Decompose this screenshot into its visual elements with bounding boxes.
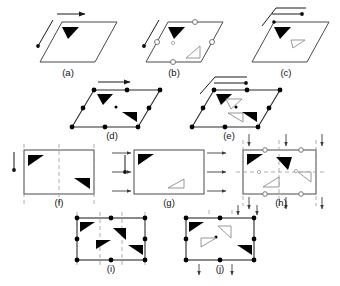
- panel-b-edge-circle-right: [210, 40, 215, 45]
- panel-i-lattice-dot: [75, 258, 80, 263]
- panel-d-lattice-dot: [158, 88, 163, 93]
- panel-c-caption: (c): [280, 67, 291, 78]
- panel-e-lattice-dot: [278, 88, 283, 93]
- panel-e-open-triangle: [226, 99, 242, 109]
- panel-h-filled-triangle: [276, 157, 292, 170]
- panel-e-lattice-dot: [267, 106, 272, 111]
- panel-d-lattice-dot: [136, 125, 141, 130]
- panel-i-filled-triangle: [128, 245, 143, 255]
- panel-d-filled-triangle: [122, 112, 137, 122]
- panel-h-caption: (h): [275, 197, 287, 208]
- panel-j-lattice-dot: [218, 216, 223, 221]
- figure-canvas: (a) (b) (c): [0, 0, 340, 286]
- panel-b-edge-circle-top: [193, 20, 198, 25]
- panel-j-filled-triangle: [237, 245, 252, 255]
- panel-j-open-triangle: [201, 238, 216, 247]
- panel-c-origin-dot: [272, 20, 276, 24]
- panel-j-lattice-dot: [184, 237, 189, 242]
- panel-b-edge-circle-bottom: [171, 60, 176, 65]
- panel-d-caption: (d): [106, 130, 118, 141]
- panel-i-lattice-dot: [143, 237, 148, 242]
- panel-d-center-dot: [115, 106, 118, 109]
- panel-h-edge-circle: [263, 148, 268, 153]
- panel-b-edge-circle-left: [155, 40, 160, 45]
- panel-b-center-circle: [171, 41, 174, 44]
- panel-i-lattice-dot: [143, 258, 148, 263]
- panel-j-open-triangle: [218, 226, 231, 238]
- panel-g-caption: (g): [163, 197, 175, 208]
- panel-c-parallelogram: [252, 22, 329, 62]
- symmetry-diagram-svg: (a) (b) (c): [0, 0, 340, 286]
- panel-i-caption: (i): [107, 263, 115, 274]
- panel-i: (i): [75, 212, 148, 274]
- panel-j-lattice-dot: [184, 216, 189, 221]
- panel-d-lattice-dot: [103, 125, 108, 130]
- panel-h-center-circle: [294, 169, 297, 172]
- panel-g-filled-triangle: [138, 154, 154, 165]
- panel-h-center-circle: [257, 170, 260, 173]
- panel-c-arrow-hooked: [262, 8, 306, 26]
- panel-g: (g): [112, 150, 226, 208]
- panel-c-filled-triangle: [274, 27, 291, 39]
- panel-h-open-triangle: [298, 172, 311, 182]
- panel-e-lattice-dot: [201, 106, 206, 111]
- panel-j-lattice-dot: [184, 258, 189, 263]
- panel-h-open-triangle: [263, 177, 279, 187]
- panel-c-open-triangle: [291, 40, 305, 48]
- panel-i-lattice-dot: [143, 216, 148, 221]
- panel-e-lattice-dot: [190, 125, 195, 130]
- panel-j-lattice-dot: [252, 216, 257, 221]
- panel-j-caption: (j): [216, 263, 224, 274]
- panel-b-caption: (b): [168, 67, 180, 78]
- panel-i-lattice-dot: [75, 237, 80, 242]
- panel-i-lattice-dot: [109, 216, 114, 221]
- panel-a-caption: (a): [62, 67, 74, 78]
- panel-i-lattice-dot: [109, 258, 114, 263]
- panel-h-edge-circle: [263, 192, 268, 197]
- panel-h: (h): [236, 134, 324, 209]
- panel-e-lattice-dot: [223, 125, 228, 130]
- panel-e-filled-triangle: [242, 112, 257, 122]
- panel-i-filled-triangle: [80, 222, 95, 232]
- panel-a: (a): [38, 14, 117, 78]
- panel-e-lattice-dot: [256, 125, 261, 130]
- panel-a-parallelogram: [40, 22, 117, 62]
- panel-e-lattice-dot: [245, 88, 250, 93]
- panel-j-lattice-dot: [252, 258, 257, 263]
- panel-d: (d): [70, 82, 163, 141]
- panel-f-caption: (f): [55, 197, 64, 208]
- panel-i-filled-triangle: [96, 240, 111, 249]
- panel-h-filled-triangle: [247, 154, 263, 165]
- panel-d-lattice-dot: [70, 125, 75, 130]
- panel-f: (f): [14, 144, 94, 208]
- panel-i-filled-triangle: [113, 228, 126, 240]
- panel-j-filled-triangle: [189, 222, 204, 232]
- panel-b-open-triangle: [186, 46, 200, 58]
- panel-e-caption: (e): [223, 130, 235, 141]
- panel-h-edge-circle: [299, 192, 304, 197]
- panel-e-open-triangle: [228, 113, 243, 122]
- panel-g-open-triangle: [168, 179, 184, 188]
- panel-j-lattice-dot: [252, 237, 257, 242]
- panel-e-arrow-hooked: [200, 77, 247, 94]
- panel-b: (b): [144, 20, 223, 79]
- panel-j-lattice-dot: [218, 258, 223, 263]
- panel-e: (e): [190, 77, 283, 141]
- panel-d-filled-triangle: [97, 94, 113, 105]
- panel-d-lattice-dot: [81, 106, 86, 111]
- panel-e-lattice-dot: [212, 88, 217, 93]
- panel-b-filled-triangle: [168, 27, 185, 39]
- panel-c: (c): [252, 8, 329, 78]
- panel-f-filled-triangle: [74, 178, 90, 189]
- panel-f-filled-triangle: [28, 155, 44, 166]
- panel-j: (j): [184, 205, 257, 275]
- panel-d-lattice-dot: [92, 88, 97, 93]
- panel-h-edge-circle: [299, 148, 304, 153]
- panel-a-filled-triangle: [62, 27, 79, 39]
- panel-d-lattice-dot: [147, 106, 152, 111]
- panel-i-lattice-dot: [75, 216, 80, 221]
- panel-d-lattice-dot: [125, 88, 130, 93]
